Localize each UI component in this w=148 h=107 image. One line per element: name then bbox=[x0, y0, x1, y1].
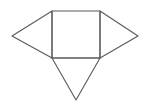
geometry-figure bbox=[0, 0, 148, 107]
central-square-face bbox=[52, 11, 100, 58]
